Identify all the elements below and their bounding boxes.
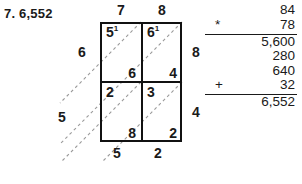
cell-lower-digit: 2 [169,126,177,140]
lattice-right-label-1: 4 [192,105,200,119]
lattice-cell-0-1: 61 4 [141,22,182,82]
lattice-cell-1-0: 2 8 [100,82,141,142]
algorithm-multiplier-row: * 78 [205,18,297,35]
algorithm-partial-2: 640 [205,64,297,79]
problem-number: 7. [4,6,15,21]
cell-lower-digit: 4 [169,66,177,80]
algorithm-multiplicand: 84 [205,3,297,18]
cell-upper-digit: 2 [106,85,114,99]
algorithm-partial-3: 32 [280,77,295,92]
lattice-sum-bottom-0: 5 [113,146,121,160]
lattice-top-label-0: 7 [117,3,125,17]
lattice-grid: 51 6 61 4 2 8 3 2 [100,22,182,142]
algorithm-multiplier: 78 [280,17,295,32]
algorithm-total: 6,552 [205,95,297,110]
lattice-top-label-1: 8 [158,3,166,17]
algorithm-partial-3-row: + 32 [205,78,297,95]
standard-algorithm: 84 * 78 5,600 280 640 + 32 6,552 [205,3,297,110]
plus-sign: + [215,78,223,93]
cell-upper-digit: 3 [147,85,155,99]
problem-label: 7. 6,552 [4,6,53,21]
cell-lower-digit: 6 [128,66,136,80]
cell-upper-digit: 61 [147,25,159,39]
lattice-cell-0-0: 51 6 [100,22,141,82]
problem-answer: 6,552 [19,6,53,21]
cell-lower-digit: 8 [128,126,136,140]
lattice-sum-bottom-1: 2 [154,146,162,160]
algorithm-partial-1: 280 [205,49,297,64]
algorithm-partial-0: 5,600 [205,35,297,50]
cell-upper-digit: 51 [106,25,118,39]
lattice-right-label-0: 8 [192,45,200,59]
lattice-cell-1-1: 3 2 [141,82,182,142]
lattice-sum-left: 5 [58,110,66,124]
multiply-sign: * [215,18,220,33]
lattice-left-label-0: 6 [78,45,86,59]
